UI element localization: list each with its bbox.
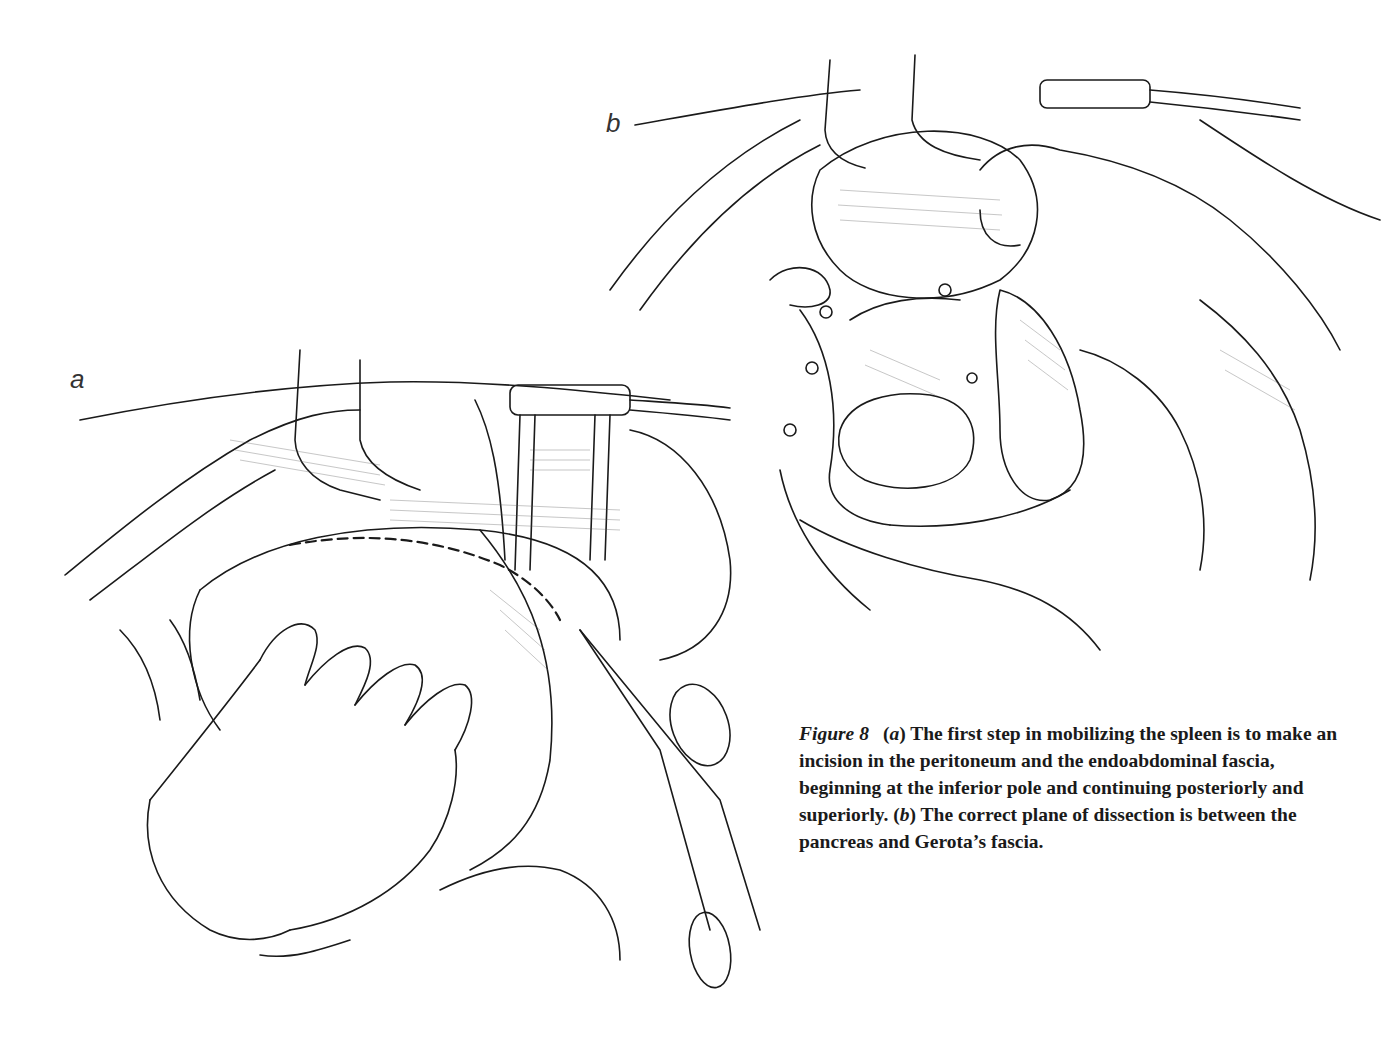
panel-a-label: a	[70, 364, 84, 395]
panel-b-illustration	[600, 50, 1400, 670]
figure-caption: Figure 8(a) The first step in mobilizing…	[799, 720, 1339, 855]
pancreas-gerota-plane-drawing	[600, 50, 1400, 670]
panel-b-label: b	[606, 108, 620, 139]
figure-number: Figure 8	[799, 723, 869, 744]
caption-marker-a: (a)	[883, 723, 906, 744]
caption-marker-b: (b)	[893, 804, 916, 825]
